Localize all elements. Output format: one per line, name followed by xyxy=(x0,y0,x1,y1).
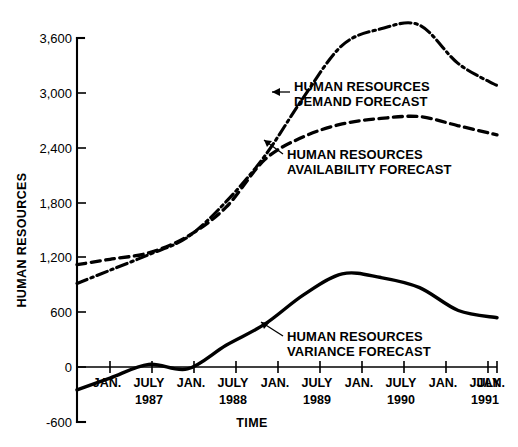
y-tick-label-1800: 1,800 xyxy=(39,196,72,211)
year-label-1988: 1988 xyxy=(219,393,247,407)
year-label-1987: 1987 xyxy=(135,393,163,407)
year-label-1989: 1989 xyxy=(303,393,331,407)
x-tick-label-7: JULY xyxy=(386,376,417,390)
y-tick-label-3600: 3,600 xyxy=(39,31,72,46)
series-line-availability-forecast xyxy=(77,116,497,264)
availability-annotation-line1: HUMAN RESOURCES xyxy=(287,147,423,162)
y-tick-marks xyxy=(77,93,86,367)
x-tick-labels: JAN. JULY JAN. JULY JAN. JULY JAN. JULY … xyxy=(93,376,505,390)
year-label-1990: 1990 xyxy=(387,393,415,407)
variance-annotation-line1: HUMAN RESOURCES xyxy=(287,329,423,344)
annotation-demand-forecast: HUMAN RESOURCES DEMAND FORECAST xyxy=(272,79,430,109)
demand-leader-arrow-icon xyxy=(272,88,280,96)
annotation-variance-forecast: HUMAN RESOURCES VARIANCE FORECAST xyxy=(261,322,431,359)
y-tick-label-1200: 1,200 xyxy=(39,250,72,265)
x-tick-label-3: JULY xyxy=(218,376,249,390)
x-tick-label-4: JAN. xyxy=(261,376,289,390)
demand-annotation-line2: DEMAND FORECAST xyxy=(294,94,428,109)
x-tick-label-10: JAN. xyxy=(477,376,505,390)
variance-annotation-line2: VARIANCE FORECAST xyxy=(287,344,431,359)
y-tick-label-3000: 3,000 xyxy=(39,86,72,101)
annotation-availability-forecast: HUMAN RESOURCES AVAILABILITY FORECAST xyxy=(264,140,452,177)
y-tick-label-600: 600 xyxy=(50,305,72,320)
y-tick-label-0: 0 xyxy=(65,360,72,375)
x-year-labels: 1987 1988 1989 1990 1991 xyxy=(135,393,499,407)
demand-annotation-line1: HUMAN RESOURCES xyxy=(294,79,430,94)
y-axis-title: HUMAN RESOURCES xyxy=(15,172,29,307)
chart-figure: 3,600 3,000 2,400 1,800 1,200 600 0 -600… xyxy=(0,0,518,447)
x-tick-label-8: JAN. xyxy=(429,376,457,390)
availability-annotation-line2: AVAILABILITY FORECAST xyxy=(287,162,452,177)
x-tick-label-5: JULY xyxy=(302,376,333,390)
y-tick-label-minus600: -600 xyxy=(46,415,72,430)
x-tick-label-1: JULY xyxy=(134,376,165,390)
y-tick-label-2400: 2,400 xyxy=(39,141,72,156)
x-tick-label-2: JAN. xyxy=(177,376,205,390)
x-axis-title: TIME xyxy=(236,416,267,430)
year-label-1991: 1991 xyxy=(471,393,499,407)
x-tick-label-6: JAN. xyxy=(345,376,373,390)
y-tick-labels: 3,600 3,000 2,400 1,800 1,200 600 0 -600 xyxy=(39,31,72,430)
human-resources-forecast-chart: 3,600 3,000 2,400 1,800 1,200 600 0 -600… xyxy=(0,0,518,447)
